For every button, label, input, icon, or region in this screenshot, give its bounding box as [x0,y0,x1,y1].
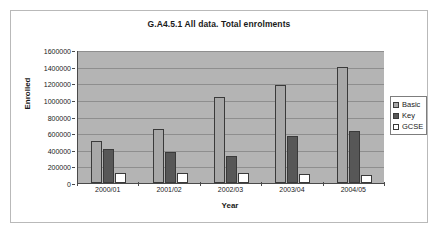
x-tick-label: 2000/01 [95,186,120,193]
y-tick-mark [72,51,75,52]
y-tick-label: 1200000 [44,81,71,88]
x-tick-mark [261,182,262,186]
bar-2001-02-basic [153,129,164,183]
legend-swatch-icon [393,124,399,130]
chart-frame: G.A4.5.1 All data. Total enrolments Enro… [10,10,428,223]
bar-group [262,51,323,183]
x-tick-label: 2002/03 [218,186,243,193]
x-tick-label: 2004/05 [341,186,366,193]
chart-legend: BasicKeyGCSE [390,96,427,135]
legend-item-basic[interactable]: Basic [393,99,423,110]
y-tick-label: 400000 [48,147,71,154]
x-tick-mark [384,182,385,186]
plot-area [77,51,384,184]
x-tick-label: 2003/04 [279,186,304,193]
bar-2002-03-key [226,156,237,183]
y-tick-label: 1400000 [44,64,71,71]
x-tick-mark [200,182,201,186]
bar-2004-05-key [349,131,360,183]
legend-label: Basic [402,100,420,109]
y-tick-label: 200000 [48,164,71,171]
y-axis-tick-labels: 0200000400000600000800000100000012000001… [11,51,75,183]
x-tick-label: 2001/02 [156,186,181,193]
y-tick-label: 800000 [48,114,71,121]
x-tick-mark [138,182,139,186]
chart-title: G.A4.5.1 All data. Total enrolments [11,19,427,29]
y-tick-mark [72,84,75,85]
y-tick-mark [72,68,75,69]
bar-2003-04-key [287,136,298,183]
bar-2001-02-gcse [177,173,188,183]
bar-2003-04-gcse [299,174,310,183]
legend-swatch-icon [393,102,399,108]
bar-2004-05-basic [337,67,348,183]
y-tick-mark [72,101,75,102]
bar-2002-03-gcse [238,173,249,183]
bar-2002-03-basic [214,97,225,183]
x-tick-mark [77,182,78,186]
y-tick-mark [72,184,75,185]
bar-group [78,51,139,183]
bar-group [201,51,262,183]
bar-2003-04-basic [275,85,286,184]
bar-2000-01-basic [91,141,102,183]
legend-label: GCSE [402,122,423,131]
bar-2001-02-key [165,152,176,183]
y-tick-mark [72,151,75,152]
x-axis-title: Year [77,201,383,210]
bar-2000-01-key [103,149,114,183]
legend-item-gcse[interactable]: GCSE [393,121,423,132]
y-tick-label: 1000000 [44,97,71,104]
bar-group [139,51,200,183]
x-axis-tick-labels: 2000/012001/022002/032003/042004/05 [77,186,383,200]
legend-label: Key [402,111,415,120]
y-tick-label: 600000 [48,131,71,138]
y-tick-label: 1600000 [44,48,71,55]
bar-group [324,51,385,183]
y-tick-mark [72,134,75,135]
y-tick-mark [72,118,75,119]
bar-2000-01-gcse [115,173,126,183]
legend-swatch-icon [393,113,399,119]
x-tick-mark [323,182,324,186]
legend-item-key[interactable]: Key [393,110,423,121]
bar-2004-05-gcse [361,175,372,183]
y-tick-mark [72,167,75,168]
y-tick-label: 0 [67,181,71,188]
